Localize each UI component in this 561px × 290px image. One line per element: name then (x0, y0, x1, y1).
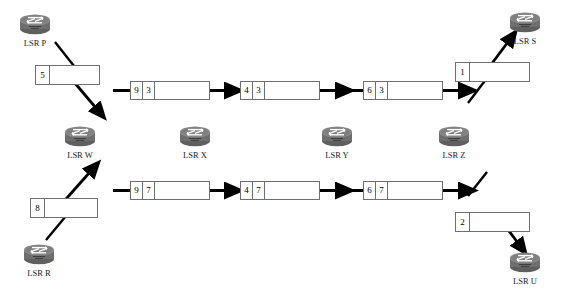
packet-z-s: 1 (455, 62, 530, 82)
router-icon-lsr-u (510, 252, 540, 272)
label-cell: 2 (456, 213, 470, 231)
packet-x-y: 4 3 (240, 81, 320, 100)
payload-cell (265, 82, 319, 99)
node-lsr-y: LSR Y (312, 150, 362, 161)
node-label-lsr-r: LSR R (14, 269, 64, 279)
label-cell: 5 (36, 66, 50, 84)
node-label-lsr-w: LSR W (55, 151, 105, 161)
node-label-lsr-x: LSR X (170, 151, 220, 161)
label-cell: 8 (31, 199, 45, 217)
label-cell: 9 (131, 82, 143, 99)
packet-y-z-bottom: 6 7 (363, 181, 443, 200)
label-cell: 7 (253, 182, 265, 199)
node-lsr-r: LSR R (14, 268, 64, 279)
label-cell: 3 (253, 82, 265, 99)
packet-x-y-bottom: 4 7 (240, 181, 320, 200)
packet-p-out: 5 (35, 65, 100, 85)
node-lsr-p: LSR P (10, 38, 60, 49)
node-label-lsr-u: LSR U (500, 277, 550, 287)
packet-z-u: 2 (455, 212, 530, 232)
packet-w-x-bottom: 9 7 (130, 181, 210, 200)
router-icon-lsr-w (65, 126, 95, 146)
diagram-canvas: LSR P LSR W LSR X LSR Y LSR Z LSR S LSR … (0, 0, 561, 290)
router-icon-lsr-r (24, 244, 54, 264)
node-lsr-s: LSR S (500, 36, 550, 47)
payload-cell (45, 199, 97, 217)
node-label-lsr-z: LSR Z (429, 151, 479, 161)
node-label-lsr-p: LSR P (10, 39, 60, 49)
label-cell: 3 (376, 82, 388, 99)
router-icon-lsr-p (20, 14, 50, 34)
link-z-to-u (468, 172, 518, 243)
connector-layer (0, 0, 561, 290)
payload-cell (265, 182, 319, 199)
router-icon-lsr-z (439, 126, 469, 146)
payload-cell (155, 82, 209, 99)
payload-cell (388, 182, 442, 199)
packet-w-x: 9 3 (130, 81, 210, 100)
label-cell: 4 (241, 82, 253, 99)
router-icon-lsr-y (322, 126, 352, 146)
packet-y-z: 6 3 (363, 81, 443, 100)
node-lsr-w: LSR W (55, 150, 105, 161)
payload-cell (470, 213, 529, 231)
payload-cell (50, 66, 99, 84)
label-cell: 9 (131, 182, 143, 199)
node-lsr-z: LSR Z (429, 150, 479, 161)
node-lsr-x: LSR X (170, 150, 220, 161)
payload-cell (470, 63, 529, 81)
label-cell: 1 (456, 63, 470, 81)
packet-r-out: 8 (30, 198, 98, 218)
node-lsr-u: LSR U (500, 276, 550, 287)
label-cell: 7 (143, 182, 155, 199)
label-cell: 4 (241, 182, 253, 199)
label-cell: 7 (376, 182, 388, 199)
node-label-lsr-s: LSR S (500, 37, 550, 47)
node-label-lsr-y: LSR Y (312, 151, 362, 161)
router-icon-lsr-x (180, 126, 210, 146)
label-cell: 6 (364, 182, 376, 199)
label-cell: 3 (143, 82, 155, 99)
router-icon-lsr-s (510, 12, 540, 32)
payload-cell (388, 82, 442, 99)
payload-cell (155, 182, 209, 199)
label-cell: 6 (364, 82, 376, 99)
